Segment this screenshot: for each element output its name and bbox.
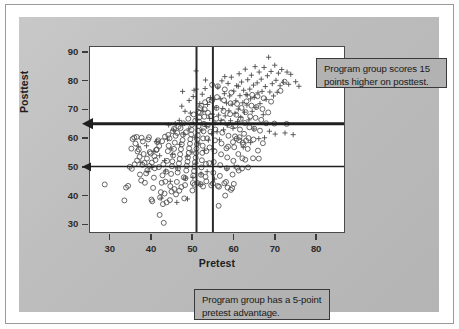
data-point-plus [273, 78, 278, 83]
data-point-plus [231, 89, 236, 94]
data-point-circle [231, 181, 236, 186]
x-tick-label: 30 [98, 243, 122, 254]
data-point-plus [200, 92, 205, 97]
y-tick-label: 70 [56, 103, 78, 114]
data-point-circle [176, 161, 181, 166]
data-point-plus [237, 93, 242, 98]
x-tick-mark [191, 234, 193, 240]
data-point-circle [260, 141, 265, 146]
data-point-plus [203, 86, 208, 91]
data-point-circle [232, 145, 237, 150]
y-tick-mark [82, 51, 88, 53]
x-tick-label: 70 [263, 243, 287, 254]
data-point-plus [205, 169, 210, 174]
data-point-plus [229, 75, 234, 80]
data-point-plus [263, 84, 268, 89]
data-point-plus [188, 110, 193, 115]
x-tick-mark [109, 234, 111, 240]
data-point-plus [233, 98, 238, 103]
data-point-plus [219, 118, 224, 123]
data-point-circle [199, 165, 204, 170]
data-point-circle [256, 156, 261, 161]
data-point-plus [267, 89, 272, 94]
data-point-circle [149, 160, 154, 165]
data-point-circle [133, 141, 138, 146]
data-point-plus [272, 63, 277, 68]
data-point-plus [227, 93, 232, 98]
data-point-circle [139, 178, 144, 183]
data-point-circle [165, 149, 170, 154]
data-point-plus [250, 109, 255, 114]
data-point-plus [180, 89, 185, 94]
data-point-plus [256, 136, 261, 141]
data-point-circle [228, 112, 233, 117]
data-point-plus [203, 77, 208, 82]
data-point-plus [225, 81, 230, 86]
data-point-plus [223, 113, 228, 118]
y-tick-mark [82, 195, 88, 197]
data-point-plus [273, 132, 278, 137]
data-point-plus [174, 200, 179, 205]
y-tick-mark [82, 80, 88, 82]
data-point-circle [204, 179, 209, 184]
x-axis-title: Pretest [89, 257, 345, 269]
data-point-plus [207, 116, 212, 121]
data-point-plus [245, 77, 250, 82]
data-point-circle [129, 146, 134, 151]
data-point-plus [217, 137, 222, 142]
data-point-plus [240, 100, 245, 105]
data-point-circle [182, 196, 187, 201]
y-tick-label: 80 [56, 75, 78, 86]
data-point-plus [221, 127, 226, 132]
data-point-plus [219, 78, 224, 83]
data-point-circle [102, 182, 107, 187]
data-point-circle [225, 155, 230, 160]
data-point-plus [182, 109, 187, 114]
scatter-canvas [90, 47, 344, 232]
y-axis-title: Posttest [18, 71, 30, 113]
data-point-circle [206, 110, 211, 115]
data-point-circle [186, 116, 191, 121]
data-point-plus [226, 108, 231, 113]
data-point-circle [258, 128, 263, 133]
data-point-plus [261, 112, 266, 117]
data-point-circle [259, 117, 264, 122]
x-tick-label: 60 [222, 243, 246, 254]
data-point-plus [288, 72, 293, 77]
data-point-plus [216, 112, 221, 117]
data-point-plus [271, 93, 276, 98]
data-point-circle [253, 115, 258, 120]
data-point-plus [253, 64, 258, 69]
data-point-plus [257, 69, 262, 74]
x-tick-label: 80 [304, 243, 328, 254]
data-point-plus [247, 87, 252, 92]
y-tick-label: 60 [56, 132, 78, 143]
data-point-circle [137, 172, 142, 177]
data-point-circle [269, 99, 274, 104]
data-point-circle [158, 195, 163, 200]
data-point-plus [284, 69, 289, 74]
data-point-plus [265, 73, 270, 78]
data-point-plus [282, 130, 287, 135]
data-point-circle [266, 110, 271, 115]
data-point-plus [157, 153, 162, 158]
figure-outer-border: Posttest Pretest 30405060708090304050607… [5, 4, 454, 324]
data-point-plus [232, 111, 237, 116]
data-point-plus [241, 88, 246, 93]
data-point-plus [168, 179, 173, 184]
data-point-circle [249, 103, 254, 108]
data-point-circle [231, 158, 236, 163]
y-tick-label: 40 [56, 190, 78, 201]
data-point-circle [239, 105, 244, 110]
data-point-circle [246, 165, 251, 170]
data-point-plus [245, 93, 250, 98]
data-point-circle [282, 79, 287, 84]
data-point-plus [278, 83, 283, 88]
data-point-plus [259, 77, 264, 82]
data-point-plus [222, 74, 227, 79]
data-point-circle [216, 203, 221, 208]
data-point-plus [187, 98, 192, 103]
data-point-circle [223, 193, 228, 198]
data-point-circle [237, 127, 242, 132]
data-point-plus [262, 135, 267, 140]
